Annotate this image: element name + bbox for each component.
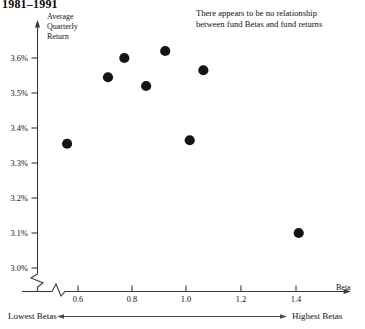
y-tick-label: 3.5% — [2, 89, 28, 98]
x-axis-arrow-icon — [344, 289, 351, 294]
y-tick-label: 3.1% — [2, 229, 28, 238]
scatter-point — [62, 139, 72, 149]
highest-betas-label: Highest Betas — [292, 311, 342, 321]
range-arrow-left-icon — [57, 314, 64, 319]
scatter-point — [160, 46, 170, 56]
scatter-point — [185, 135, 195, 145]
x-tick-label: 1.4 — [283, 295, 309, 304]
range-arrow-right-icon — [280, 314, 287, 319]
y-tick-label: 3.6% — [2, 54, 28, 63]
y-tick-label: 3.3% — [2, 159, 28, 168]
y-axis — [31, 20, 43, 291]
scatter-point — [294, 228, 304, 238]
y-axis-arrow-icon — [35, 20, 40, 27]
y-tick-label: 3.0% — [2, 264, 28, 273]
scatter-markers — [62, 46, 304, 238]
plot-svg — [0, 0, 365, 329]
scatter-point — [198, 65, 208, 75]
x-tick-label: 1.0 — [173, 295, 199, 304]
scatter-point — [103, 72, 113, 82]
x-tick-label: 0.6 — [65, 295, 91, 304]
y-axis-break-icon — [31, 270, 43, 291]
y-tick-label: 3.4% — [2, 124, 28, 133]
x-tick-marks — [78, 286, 296, 292]
y-tick-marks — [32, 58, 38, 268]
beta-range-arrow — [57, 314, 287, 319]
chart-canvas: 1981–1991 There appears to be no relatio… — [0, 0, 365, 329]
x-tick-label: 0.8 — [119, 295, 145, 304]
x-tick-label: 1.2 — [228, 295, 254, 304]
y-tick-label: 3.2% — [2, 194, 28, 203]
scatter-point — [141, 81, 151, 91]
scatter-point — [119, 53, 129, 63]
lowest-betas-label: Lowest Betas — [8, 311, 57, 321]
